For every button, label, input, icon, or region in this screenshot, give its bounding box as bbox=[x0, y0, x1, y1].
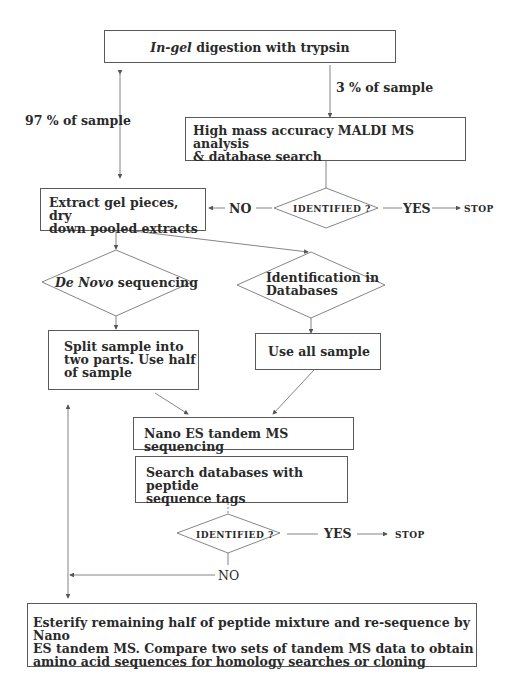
digestion-italic: In-gel bbox=[150, 40, 192, 55]
useall-box: Use all sample bbox=[255, 333, 381, 370]
split-box: Split sample into two parts. Use half of… bbox=[48, 330, 199, 390]
stop1-label: STOP bbox=[464, 203, 494, 216]
yes2-label: YES bbox=[324, 527, 351, 540]
search-box: Search databases with peptide sequence t… bbox=[135, 456, 348, 503]
label-97-percent: 97 % of sample bbox=[25, 114, 131, 127]
identification-line2: Databases bbox=[266, 284, 379, 297]
decision2-label: IDENTIFIED ? bbox=[196, 529, 274, 542]
search-line2: sequence tags bbox=[146, 492, 347, 505]
extract-box: Extract gel pieces, dry down pooled extr… bbox=[40, 188, 206, 231]
label-3-percent: 3 % of sample bbox=[336, 81, 433, 94]
maldi-box: High mass accuracy MALDI MS analysis & d… bbox=[185, 117, 466, 161]
no2-label: NO bbox=[218, 569, 239, 582]
esterify-line3: amino acid sequences for homology search… bbox=[33, 655, 476, 668]
esterify-line1: Esterify remaining half of peptide mixtu… bbox=[33, 616, 476, 642]
denovo-text: sequencing bbox=[114, 275, 198, 290]
yes1-label: YES bbox=[403, 202, 430, 215]
extract-line2: down pooled extracts bbox=[49, 222, 205, 235]
identification-label: Identification in Databases bbox=[266, 271, 379, 297]
no1-label: NO bbox=[229, 202, 251, 215]
split-line3: of sample bbox=[64, 366, 198, 379]
digestion-text: digestion with trypsin bbox=[192, 40, 350, 55]
nanoes-box: Nano ES tandem MS sequencing bbox=[133, 417, 354, 450]
decision1-label: IDENTIFIED ? bbox=[293, 203, 371, 216]
denovo-italic: De Novo bbox=[55, 275, 114, 290]
maldi-line1: High mass accuracy MALDI MS analysis bbox=[193, 124, 465, 150]
digestion-box: In-gel digestion with trypsin bbox=[104, 30, 396, 63]
nanoes-label: Nano ES tandem MS sequencing bbox=[144, 427, 353, 453]
search-line1: Search databases with peptide bbox=[146, 466, 347, 492]
maldi-line2: & database search bbox=[193, 150, 465, 163]
extract-line1: Extract gel pieces, dry bbox=[49, 196, 205, 222]
esterify-box: Esterify remaining half of peptide mixtu… bbox=[27, 603, 477, 667]
useall-label: Use all sample bbox=[268, 345, 380, 358]
stop2-label: STOP bbox=[395, 529, 425, 542]
denovo-label: De Novo sequencing bbox=[55, 276, 198, 289]
